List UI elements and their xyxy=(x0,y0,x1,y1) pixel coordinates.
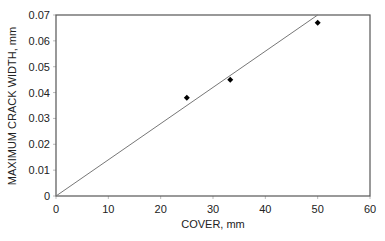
plot-area xyxy=(56,15,370,196)
chart: 00.010.020.030.040.050.060.07 0102030405… xyxy=(0,0,385,241)
x-tick-label: 50 xyxy=(312,203,324,215)
x-tick-label: 40 xyxy=(259,203,271,215)
y-axis-title: MAXIMUM CRACK WIDTH, mm xyxy=(6,27,18,185)
x-tick-label: 0 xyxy=(53,203,59,215)
x-tick-label: 30 xyxy=(207,203,219,215)
x-tick-label: 10 xyxy=(102,203,114,215)
x-axis-tick-labels: 0102030405060 xyxy=(53,203,376,215)
y-axis-tick-labels: 00.010.020.030.040.050.060.07 xyxy=(29,9,50,202)
x-tick-label: 60 xyxy=(364,203,376,215)
y-tick-label: 0.07 xyxy=(29,9,50,21)
y-tick-label: 0.05 xyxy=(29,61,50,73)
y-tick-label: 0.04 xyxy=(29,87,50,99)
y-tick-label: 0.02 xyxy=(29,138,50,150)
x-tick-label: 20 xyxy=(155,203,167,215)
y-tick-label: 0.03 xyxy=(29,112,50,124)
y-tick-label: 0 xyxy=(44,190,50,202)
x-axis-title: COVER, mm xyxy=(181,218,245,230)
y-tick-label: 0.06 xyxy=(29,35,50,47)
y-tick-label: 0.01 xyxy=(29,164,50,176)
